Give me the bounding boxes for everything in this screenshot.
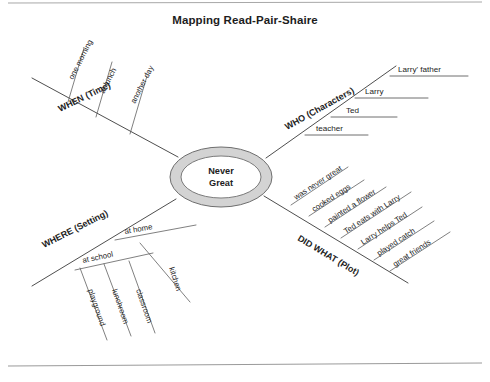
branch-did-what[interactable]: DID WHAT (Plot)was never greatcooked egg… (264, 163, 450, 283)
center-label-line2: Great (209, 178, 233, 188)
sub-label-who-1[interactable]: Ted (346, 106, 359, 115)
branch-where[interactable]: WHERE (Setting)at homekitchenat schoolpl… (32, 199, 196, 340)
sub-label-who-2[interactable]: Larry (365, 87, 384, 96)
branch-when[interactable]: WHEN (Time)one morningat lunchanother da… (32, 38, 178, 157)
center-label-line1: Never (208, 166, 234, 176)
sub-label-where-5[interactable]: classroom (134, 288, 154, 325)
branch-label-did-what: DID WHAT (Plot) (296, 233, 361, 278)
sub-label-when-0[interactable]: one morning (67, 38, 95, 81)
sub-label-where-1[interactable]: kitchen (167, 266, 183, 292)
branch-line-who (266, 66, 396, 158)
top-rule (8, 2, 482, 3)
branch-label-where: WHERE (Setting) (40, 208, 109, 250)
sub-label-did-what-3[interactable]: Ted eats with Larry (342, 192, 402, 235)
bottom-rule (8, 363, 482, 366)
sub-label-who-0[interactable]: teacher (316, 124, 343, 133)
sub-label-when-2[interactable]: another day (129, 64, 156, 105)
sub-label-who-3[interactable]: Larry' father (398, 65, 441, 74)
sub-label-where-3[interactable]: playground (86, 288, 107, 327)
sub-line-where-1 (140, 243, 190, 302)
center-oval-inner (181, 156, 261, 198)
mindmap-canvas: Mapping Read-Pair-Shaire WHEN (Time)one … (0, 0, 490, 382)
center-node[interactable]: Never Great (170, 147, 272, 207)
mindmap-page: Mapping Read-Pair-Shaire WHEN (Time)one … (0, 0, 490, 382)
page-title: Mapping Read-Pair-Shaire (172, 14, 318, 26)
sub-label-where-4[interactable]: lunchroom (110, 288, 130, 325)
branch-who[interactable]: WHO (Characters)teacherTedLarryLarry' fa… (266, 65, 468, 158)
